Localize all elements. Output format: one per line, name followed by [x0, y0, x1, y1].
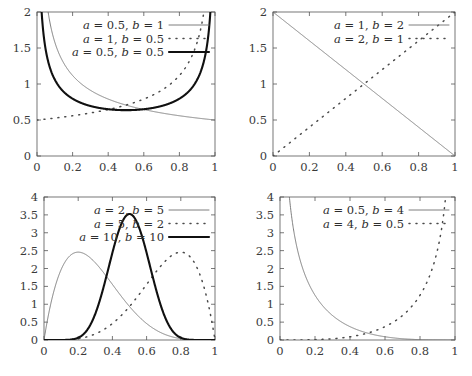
x-tick-label: 0.4 [103, 344, 121, 358]
legend-label: a = 10, b = 10 [79, 230, 164, 244]
x-tick-label: 1 [211, 160, 218, 174]
legend: a = 2, b = 5a = 5, b = 2a = 10, b = 10 [79, 203, 209, 244]
legend-label: a = 0.5, b = 4 [323, 203, 404, 217]
y-tick-label: 2.5 [256, 244, 274, 258]
y-tick-label: 1 [31, 297, 38, 311]
panel-top-right: 00.20.40.60.8100.511.52a = 1, b = 2a = 2… [236, 0, 472, 188]
legend: a = 0.5, b = 4a = 4, b = 0.5 [323, 203, 449, 231]
x-tick-label: 0.6 [137, 344, 155, 358]
x-tick-label: 0.6 [373, 160, 391, 174]
x-tick-label: 0 [40, 344, 47, 358]
legend: a = 0.5, b = 1a = 1, b = 0.5a = 0.5, b =… [72, 18, 209, 59]
y-tick-label: 4 [31, 190, 38, 204]
legend: a = 1, b = 2a = 2, b = 1 [334, 18, 449, 46]
legend-item: a = 2, b = 5 [94, 203, 209, 217]
x-tick-label: 0.8 [409, 160, 427, 174]
legend-item: a = 2, b = 1 [334, 32, 449, 46]
legend-item: a = 5, b = 2 [94, 217, 209, 231]
y-tick-label: 3 [267, 226, 274, 240]
x-tick-label: 0.8 [172, 344, 190, 358]
y-tick-label: 3.5 [20, 208, 38, 222]
y-tick-label: 1.5 [20, 279, 38, 293]
x-tick-label: 0.2 [300, 160, 318, 174]
y-tick-label: 1 [267, 297, 274, 311]
y-tick-label: 2 [24, 5, 31, 19]
legend-label: a = 0.5, b = 1 [83, 18, 164, 32]
panel-bottom-right: 00.20.40.60.8100.511.522.533.54a = 0.5, … [236, 188, 472, 376]
y-tick-label: 0 [267, 333, 274, 347]
y-tick-label: 3 [31, 226, 38, 240]
x-tick-label: 0.6 [376, 344, 394, 358]
y-tick-label: 2 [267, 262, 274, 276]
x-tick-label: 0.8 [411, 344, 429, 358]
series-curve [44, 252, 215, 340]
x-tick-label: 0.2 [69, 344, 87, 358]
y-tick-label: 2.5 [20, 244, 38, 258]
y-tick-label: 4 [267, 190, 274, 204]
x-tick-label: 0.8 [170, 160, 188, 174]
y-tick-label: 3.5 [256, 208, 274, 222]
legend-label: a = 5, b = 2 [94, 217, 164, 231]
y-tick-label: 1 [260, 77, 267, 91]
legend-item: a = 4, b = 0.5 [323, 217, 449, 231]
x-tick-label: 0.6 [135, 160, 153, 174]
y-tick-label: 2 [260, 5, 267, 19]
legend-label: a = 4, b = 0.5 [323, 217, 404, 231]
x-tick-label: 0.4 [341, 344, 359, 358]
x-tick-label: 0 [269, 160, 276, 174]
x-tick-label: 0 [276, 344, 283, 358]
x-tick-label: 0.2 [306, 344, 324, 358]
x-tick-label: 0.2 [63, 160, 81, 174]
legend-label: a = 1, b = 0.5 [83, 32, 164, 46]
series-curve [44, 252, 215, 340]
legend-label: a = 1, b = 2 [334, 18, 404, 32]
x-tick-label: 0 [33, 160, 40, 174]
y-tick-label: 0.5 [20, 315, 38, 329]
legend-item: a = 0.5, b = 4 [323, 203, 449, 217]
y-tick-label: 0 [260, 149, 267, 163]
x-tick-label: 1 [451, 344, 458, 358]
y-tick-label: 0.5 [249, 113, 267, 127]
y-tick-label: 1.5 [13, 41, 31, 55]
y-tick-label: 0 [31, 333, 38, 347]
legend-item: a = 10, b = 10 [79, 230, 209, 244]
panel-bottom-left: 00.20.40.60.8100.511.522.533.54a = 2, b … [0, 188, 236, 376]
y-tick-label: 1 [24, 77, 31, 91]
x-tick-label: 1 [211, 344, 218, 358]
figure-root: 00.20.40.60.8100.511.52a = 0.5, b = 1a =… [0, 0, 472, 376]
x-tick-label: 0.4 [99, 160, 117, 174]
legend-item: a = 1, b = 0.5 [83, 32, 209, 46]
y-tick-label: 0.5 [13, 113, 31, 127]
legend-item: a = 0.5, b = 1 [83, 18, 209, 32]
y-tick-label: 0.5 [256, 315, 274, 329]
legend-label: a = 0.5, b = 0.5 [72, 45, 164, 59]
x-tick-label: 0.4 [337, 160, 355, 174]
x-tick-label: 1 [451, 160, 458, 174]
y-tick-label: 1.5 [249, 41, 267, 55]
legend-label: a = 2, b = 1 [334, 32, 404, 46]
legend-item: a = 0.5, b = 0.5 [72, 45, 209, 59]
y-tick-label: 0 [24, 149, 31, 163]
legend-label: a = 2, b = 5 [94, 203, 164, 217]
y-tick-label: 2 [31, 262, 38, 276]
y-tick-label: 1.5 [256, 279, 274, 293]
panel-top-left: 00.20.40.60.8100.511.52a = 0.5, b = 1a =… [0, 0, 236, 188]
